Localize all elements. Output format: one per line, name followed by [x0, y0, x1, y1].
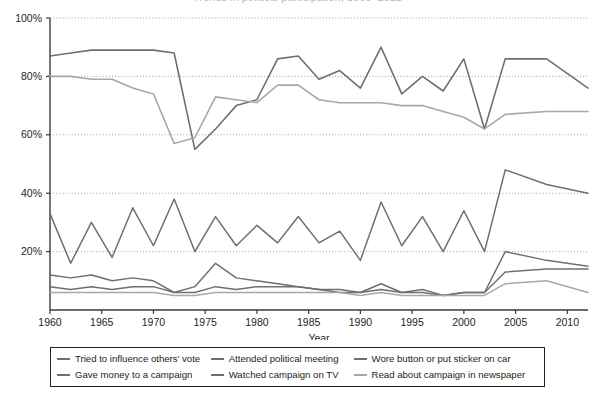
- svg-text:20%: 20%: [21, 245, 42, 257]
- legend-swatch-icon-0: [57, 358, 70, 360]
- svg-text:2010: 2010: [556, 316, 580, 328]
- series-line-3: [50, 263, 588, 295]
- axis-ticks: [46, 18, 567, 314]
- svg-text:40%: 40%: [21, 187, 42, 199]
- legend-item-read-newspaper[interactable]: Read about campaign in newspaper: [354, 370, 538, 380]
- legend-item-attended-meeting[interactable]: Attended political meeting: [211, 354, 354, 364]
- legend-swatch-icon-3: [57, 374, 70, 376]
- legend-label-1: Attended political meeting: [229, 354, 339, 364]
- legend-label-4: Watched campaign on TV: [229, 370, 339, 380]
- svg-text:80%: 80%: [21, 70, 42, 82]
- legend-swatch-icon-2: [354, 358, 367, 360]
- x-tick-labels: 1960196519701975198019851990199520002005…: [38, 316, 579, 328]
- axis-lines: [50, 18, 588, 310]
- svg-text:1975: 1975: [194, 316, 218, 328]
- svg-text:100%: 100%: [15, 12, 42, 24]
- y-tick-labels: 20%40%60%80%100%: [15, 12, 42, 258]
- legend-item-watched-tv[interactable]: Watched campaign on TV: [211, 370, 354, 380]
- chart-screenshot: Trends in political participation, 1960–…: [0, 0, 595, 400]
- series-line-0: [50, 47, 588, 149]
- series-line-2: [50, 170, 588, 263]
- svg-text:1990: 1990: [349, 316, 373, 328]
- svg-text:2005: 2005: [504, 316, 528, 328]
- svg-text:1995: 1995: [400, 316, 424, 328]
- svg-text:1980: 1980: [245, 316, 269, 328]
- legend-box: Tried to influence others’ vote Attended…: [50, 347, 545, 387]
- svg-text:1965: 1965: [90, 316, 114, 328]
- data-series-lines: [50, 47, 588, 295]
- legend-label-5: Read about campaign in newspaper: [372, 370, 526, 380]
- plot-area: 20%40%60%80%100% 19601965197019751980198…: [0, 0, 595, 340]
- legend-label-2: Wore button or put sticker on car: [372, 354, 511, 364]
- series-line-1: [50, 76, 588, 143]
- x-axis-title: Year: [308, 332, 330, 340]
- svg-text:2000: 2000: [452, 316, 476, 328]
- series-line-5: [50, 281, 588, 296]
- legend-item-gave-money[interactable]: Gave money to a campaign: [57, 370, 211, 380]
- legend-label-0: Tried to influence others’ vote: [75, 354, 200, 364]
- svg-text:1960: 1960: [38, 316, 62, 328]
- series-line-4: [50, 252, 588, 296]
- legend-item-tried-to-influence[interactable]: Tried to influence others’ vote: [57, 354, 211, 364]
- legend-swatch-icon-4: [211, 374, 224, 376]
- gridlines: [50, 18, 588, 252]
- line-chart-svg: 20%40%60%80%100% 19601965197019751980198…: [0, 0, 595, 340]
- legend-swatch-icon-1: [211, 358, 224, 360]
- legend-item-wore-button[interactable]: Wore button or put sticker on car: [354, 354, 538, 364]
- legend-label-3: Gave money to a campaign: [75, 370, 192, 380]
- svg-text:1985: 1985: [297, 316, 321, 328]
- svg-text:60%: 60%: [21, 128, 42, 140]
- legend-swatch-icon-5: [354, 374, 367, 376]
- svg-text:1970: 1970: [142, 316, 166, 328]
- legend-grid: Tried to influence others’ vote Attended…: [57, 351, 538, 383]
